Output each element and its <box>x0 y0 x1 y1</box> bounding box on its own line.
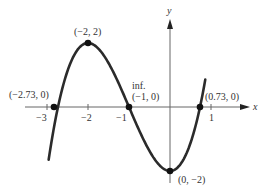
y-axis-label: y <box>166 5 172 16</box>
label-inflection-note: inf. <box>132 80 146 91</box>
point-max <box>85 40 92 47</box>
cubic-function-graph: x y −3 −2 −1 1 (−2.73, 0) (−2, 2) inf. (… <box>0 0 263 194</box>
tick-label-m2: −2 <box>81 112 92 123</box>
label-root-right: (0.73, 0) <box>205 91 239 103</box>
tick-label-1: 1 <box>209 112 214 123</box>
point-root-left <box>51 104 58 111</box>
point-root-right <box>197 104 204 111</box>
x-axis-arrow-icon <box>240 104 250 110</box>
tick-label-m1: −1 <box>116 112 127 123</box>
label-min: (0, −2) <box>178 174 205 186</box>
tick-label-m3: −3 <box>36 112 47 123</box>
x-axis-label: x <box>252 101 258 112</box>
point-min <box>167 168 174 175</box>
y-axis-arrow-icon <box>167 19 173 29</box>
label-inflection: (−1, 0) <box>132 91 159 103</box>
label-root-left: (−2.73, 0) <box>9 89 49 101</box>
label-max: (−2, 2) <box>74 26 101 38</box>
point-inflection <box>126 104 133 111</box>
